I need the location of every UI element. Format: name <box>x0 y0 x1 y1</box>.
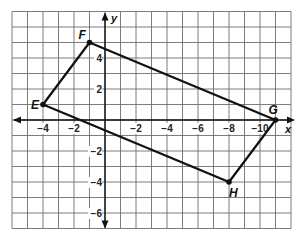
quadrilateral-efgh <box>43 43 276 183</box>
y-tick-label: 4 <box>96 53 102 64</box>
x-axis-left-arrow-icon <box>13 117 21 124</box>
x-tick-label: −4 <box>161 123 173 134</box>
y-tick-label: 2 <box>96 84 102 95</box>
y-tick-label: −6 <box>91 208 103 219</box>
y-axis-down-arrow-icon <box>102 221 109 229</box>
axes: xy <box>13 12 295 229</box>
vertex-h-label: H <box>229 186 238 200</box>
vertex-e-point <box>40 102 46 108</box>
vertex-f-point <box>87 40 93 46</box>
x-tick-label: −8 <box>223 123 235 134</box>
vertex-f-label: F <box>79 28 87 42</box>
x-tick-label: −4 <box>37 123 49 134</box>
y-tick-label: −2 <box>91 146 103 157</box>
vertex-h-point <box>226 179 232 185</box>
vertex-e-label: E <box>31 98 40 112</box>
x-tick-label: −2 <box>130 123 142 134</box>
y-tick-label: −4 <box>91 177 103 188</box>
x-tick-label: −2 <box>68 123 80 134</box>
vertices: EFGH <box>31 28 278 201</box>
quadrilateral-edges <box>43 43 276 183</box>
coordinate-plane: xy −4−2−2−4−6−8−1042−2−4−6 EFGH <box>0 0 295 236</box>
x-tick-label: −6 <box>192 123 204 134</box>
vertex-g-label: G <box>269 103 278 117</box>
vertex-g-point <box>273 117 279 123</box>
y-axis-label: y <box>110 12 118 24</box>
x-axis-label: x <box>284 123 292 135</box>
y-axis-up-arrow-icon <box>102 13 109 21</box>
